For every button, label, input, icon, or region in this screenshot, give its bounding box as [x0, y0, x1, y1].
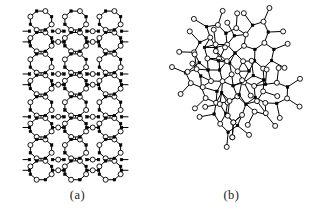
- network-former-atom-filled-square: [270, 59, 273, 62]
- figure-container: (a) (b): [0, 0, 309, 222]
- network-former-atom-filled-square: [113, 178, 116, 181]
- network-former-atom-filled-square: [51, 169, 54, 172]
- bridging-atom-open-circle: [190, 61, 195, 66]
- network-former-atom-filled-square: [29, 87, 32, 90]
- network-former-atom-filled-square: [70, 74, 73, 77]
- bridging-atom-open-circle: [205, 56, 210, 61]
- bridging-atom-open-circle: [56, 39, 61, 44]
- network-former-atom-filled-square: [120, 169, 123, 172]
- network-former-atom-filled-square: [44, 29, 47, 32]
- bridging-atom-open-circle: [203, 104, 208, 109]
- network-former-atom-filled-square: [50, 165, 53, 168]
- network-former-atom-filled-square: [97, 116, 100, 119]
- bridging-atom-open-circle: [56, 82, 61, 87]
- bridging-atom-open-circle: [49, 22, 54, 27]
- network-former-atom-filled-square: [113, 93, 116, 96]
- network-former-atom-filled-square: [119, 101, 122, 104]
- bridging-atom-open-circle: [49, 150, 54, 155]
- network-former-atom-filled-square: [267, 31, 270, 34]
- network-former-atom-filled-square: [35, 160, 38, 163]
- bridging-atom-open-circle: [213, 42, 218, 47]
- network-former-atom-filled-square: [236, 124, 239, 127]
- bridging-atom-open-circle: [285, 41, 290, 46]
- network-former-atom-filled-square: [64, 45, 67, 48]
- bridging-atom-open-circle: [267, 6, 272, 11]
- bridging-atom-open-circle: [178, 91, 183, 96]
- bridging-atom-open-circle: [213, 49, 218, 54]
- network-former-atom-filled-square: [50, 80, 53, 83]
- bridging-atom-open-circle: [118, 108, 123, 113]
- bridging-atom-open-circle: [97, 36, 102, 41]
- network-former-atom-filled-square: [64, 66, 67, 69]
- network-former-atom-filled-square: [216, 90, 219, 93]
- network-former-atom-filled-square: [119, 58, 122, 61]
- bridging-atom-open-circle: [84, 22, 89, 27]
- network-former-atom-filled-square: [50, 37, 53, 40]
- network-former-atom-filled-square: [79, 114, 82, 117]
- bridging-atom-open-circle: [170, 65, 175, 70]
- network-former-atom-filled-square: [64, 130, 67, 133]
- network-former-atom-filled-square: [98, 45, 101, 48]
- caption-panel-a: (a): [0, 188, 155, 203]
- bridging-atom-open-circle: [56, 29, 61, 34]
- network-former-atom-filled-square: [263, 79, 266, 82]
- bridging-atom-open-circle: [28, 57, 33, 62]
- caption-row: (a) (b): [0, 188, 309, 222]
- bridging-atom-open-circle: [118, 43, 123, 48]
- bridging-atom-open-circle: [90, 114, 95, 119]
- network-former-atom-filled-square: [232, 84, 235, 87]
- network-former-atom-filled-square: [44, 136, 47, 139]
- network-former-atom-filled-square: [213, 113, 216, 116]
- bridging-atom-open-circle: [97, 143, 102, 148]
- bridging-atom-open-circle: [49, 172, 54, 177]
- bridging-atom-open-circle: [56, 168, 61, 173]
- network-former-atom-filled-square: [29, 66, 32, 69]
- bridging-atom-open-circle: [298, 76, 303, 81]
- network-former-atom-filled-square: [85, 122, 88, 125]
- network-former-atom-filled-square: [50, 15, 53, 18]
- network-former-atom-filled-square: [218, 69, 221, 72]
- network-former-atom-filled-square: [119, 144, 122, 147]
- bond-line: [272, 49, 274, 60]
- network-former-atom-filled-square: [86, 116, 89, 119]
- network-former-atom-filled-square: [35, 10, 38, 13]
- network-former-atom-filled-square: [198, 61, 201, 64]
- bridging-atom-open-circle: [263, 111, 268, 116]
- bridging-atom-open-circle: [62, 14, 67, 19]
- bridging-atom-open-circle: [90, 29, 95, 34]
- network-former-atom-filled-square: [50, 101, 53, 104]
- bridging-atom-open-circle: [200, 85, 205, 90]
- bridging-atom-open-circle: [262, 40, 267, 45]
- bridging-atom-open-circle: [62, 121, 67, 126]
- bridging-atom-open-circle: [285, 96, 290, 101]
- bond-line: [253, 76, 264, 80]
- network-former-atom-filled-square: [44, 178, 47, 181]
- network-former-atom-filled-square: [86, 169, 89, 172]
- bridging-atom-open-circle: [84, 129, 89, 134]
- network-former-atom-filled-square: [70, 31, 73, 34]
- network-former-atom-filled-square: [70, 10, 73, 13]
- bridging-atom-open-circle: [177, 49, 182, 54]
- bridging-atom-open-circle: [192, 52, 197, 57]
- network-former-atom-filled-square: [28, 126, 31, 129]
- bridging-atom-open-circle: [97, 164, 102, 169]
- bridging-atom-open-circle: [118, 129, 123, 134]
- network-former-atom-filled-square: [264, 83, 267, 86]
- bridging-atom-open-circle: [28, 121, 33, 126]
- bridging-atom-open-circle: [28, 36, 33, 41]
- bridging-atom-open-circle: [118, 172, 123, 177]
- network-former-atom-filled-square: [85, 37, 88, 40]
- network-former-atom-filled-square: [28, 116, 31, 119]
- network-former-atom-filled-square: [64, 152, 67, 155]
- bridging-atom-open-circle: [62, 143, 67, 148]
- network-former-atom-filled-square: [79, 93, 82, 96]
- network-former-atom-filled-square: [63, 83, 66, 86]
- bridging-atom-open-circle: [241, 11, 246, 16]
- network-former-atom-filled-square: [113, 50, 116, 53]
- bridging-atom-open-circle: [28, 164, 33, 169]
- bridging-atom-open-circle: [103, 177, 108, 182]
- bridging-atom-open-circle: [297, 104, 302, 109]
- bridging-atom-open-circle: [43, 9, 48, 14]
- network-former-atom-filled-square: [44, 50, 47, 53]
- network-former-atom-filled-square: [63, 73, 66, 76]
